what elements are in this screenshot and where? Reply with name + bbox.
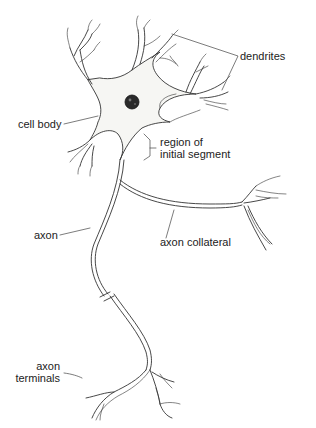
nucleus [125, 95, 139, 109]
label-region-line1: region of [160, 136, 203, 148]
axon-terminals [86, 370, 180, 420]
dendrites-lower-left [68, 140, 94, 176]
label-axon-terminals-line1: axon [14, 360, 60, 372]
label-cell-body: cell body [18, 118, 61, 130]
label-axon: axon [34, 229, 58, 241]
dendrites-upper-middle [132, 16, 178, 70]
axon [91, 160, 151, 370]
label-axon-collateral: axon collateral [160, 236, 231, 248]
label-region-line2: initial segment [160, 148, 230, 160]
dendrites-upper-left [67, 20, 100, 84]
label-dendrites: dendrites [240, 50, 285, 62]
label-axon-terminals-line2: terminals [14, 372, 60, 384]
